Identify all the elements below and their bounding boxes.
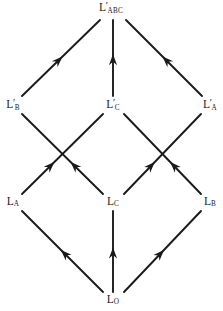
node-subscript: A	[212, 104, 217, 112]
lattice-edges-canvas	[0, 0, 223, 311]
edge-arrow	[126, 20, 202, 96]
node-subscript: C	[115, 104, 120, 112]
edge-arrow	[22, 20, 100, 96]
node-label-l-c-prime: L′C	[106, 98, 119, 112]
node-subscript: C	[114, 200, 119, 208]
node-label-l-b-prime: L′B	[6, 98, 19, 112]
node-subscript: ABC	[108, 7, 123, 15]
node-subscript: B	[15, 104, 20, 112]
node-label-l-o: LO	[107, 294, 120, 307]
edge-arrow	[22, 211, 103, 292]
edge-arrow	[124, 211, 201, 292]
lattice-diagram: L′ABCL′BL′CL′ALALCLBLO	[0, 0, 223, 311]
node-subscript: A	[14, 200, 19, 208]
edges-group	[22, 20, 202, 292]
node-label-l-a-prime: L′A	[203, 98, 217, 112]
edge-arrow	[109, 211, 117, 292]
node-label-l-b: LB	[204, 196, 216, 209]
edge-arrow	[109, 20, 117, 96]
node-subscript: B	[211, 200, 216, 208]
node-subscript: O	[114, 298, 119, 306]
node-label-l-c: LC	[107, 196, 119, 209]
node-label-l-a: LA	[7, 196, 20, 209]
node-label-l-abc-prime: L′ABC	[99, 1, 123, 15]
